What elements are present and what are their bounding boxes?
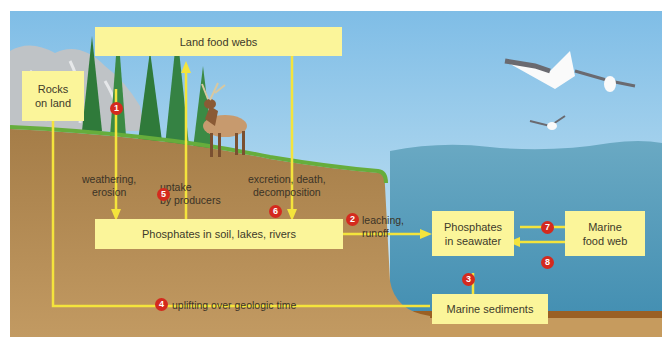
box-land-food-webs: Land food webs xyxy=(95,27,342,56)
badge-8: 8 xyxy=(541,256,554,269)
badge-7: 7 xyxy=(541,221,554,234)
badge-1: 1 xyxy=(110,102,123,115)
box-marine-sediments: Marine sediments xyxy=(432,294,548,324)
badge-2: 2 xyxy=(346,213,359,226)
badge-3: 3 xyxy=(462,273,475,286)
box-phosphates-soil: Phosphates in soil, lakes, rivers xyxy=(95,219,343,249)
phosphorus-cycle-diagram: Rocks on land Land food webs Phosphates … xyxy=(10,11,662,337)
box-marine-food-web: Marine food web xyxy=(565,211,645,256)
box-phosphates-seawater: Phosphates in seawater xyxy=(432,211,514,256)
badge-4: 4 xyxy=(155,298,168,311)
label-weathering: weathering, erosion xyxy=(82,173,136,199)
label-excretion: excretion, death, decomposition xyxy=(248,173,326,199)
badge-6: 6 xyxy=(269,205,282,218)
box-rocks-on-land: Rocks on land xyxy=(22,71,84,121)
label-uplifting: uplifting over geologic time xyxy=(172,299,296,312)
label-leaching: leaching, runoff xyxy=(362,214,404,240)
badge-5: 5 xyxy=(157,188,170,201)
